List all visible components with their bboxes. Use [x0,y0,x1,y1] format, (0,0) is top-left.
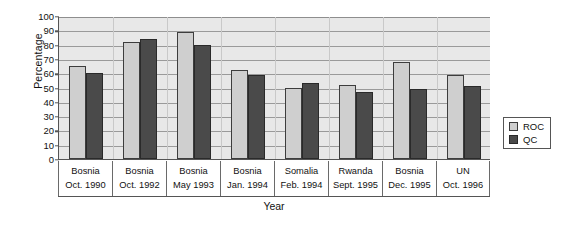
group-separator [383,17,384,159]
group-separator [113,17,114,159]
bar-group [167,17,221,159]
x-axis-category-label: SomaliaFeb. 1994 [274,161,328,196]
x-axis-label-line: Bosnia [179,166,207,178]
x-axis-label-line: Oct. 1992 [119,180,159,192]
bar-roc [447,75,464,159]
x-axis-label-line: Sept. 1995 [333,180,378,192]
legend-label-qc: QC [523,135,537,145]
bar-qc [302,83,319,159]
x-axis-category-label: RwandaSept. 1995 [328,161,382,196]
x-axis-label-line: May 1993 [173,180,214,192]
x-axis-category-label: BosniaOct. 1990 [58,161,112,196]
x-axis-title: Year [58,200,490,212]
bar-group [275,17,329,159]
bar-qc [410,89,427,159]
legend-swatch-roc [509,122,518,131]
x-axis-label-line: Rwanda [338,166,372,178]
x-axis-label-line: Bosnia [395,166,423,178]
y-axis-tick-label: 30 [2,112,54,122]
y-axis-tick-label: 60 [2,69,54,79]
bar-roc [123,42,140,159]
bar-roc [231,70,248,159]
legend-swatch-qc [509,135,518,144]
y-axis-tick-label: 10 [2,141,54,151]
y-axis-tick-label: 90 [2,27,54,37]
x-axis-label-line: Oct. 1996 [443,180,483,192]
x-axis-label-line: Somalia [285,166,319,178]
bar-qc [464,86,481,159]
x-axis-label-line: Bosnia [71,166,99,178]
group-separator [329,17,330,159]
x-axis-label-line: Dec. 1995 [388,180,430,192]
x-axis-category-band: BosniaOct. 1990BosniaOct. 1992BosniaMay … [58,161,490,197]
legend-label-roc: ROC [523,122,544,132]
x-axis-label-line: Feb. 1994 [281,180,323,192]
plot-inner: 1009080706050403020100 [59,17,490,159]
x-axis-label-line: Oct. 1990 [65,180,105,192]
chart-legend: ROCQC [503,117,551,149]
y-axis-tick-label: 100 [2,12,54,22]
group-separator [437,17,438,159]
y-axis-tick-label: 70 [2,55,54,65]
legend-item-roc: ROC [509,122,544,132]
y-axis-tick-label: 0 [2,155,54,165]
bar-roc [177,32,194,159]
group-separator [221,17,222,159]
y-axis-tick-label: 50 [2,84,54,94]
plot-area: 1009080706050403020100 [58,17,490,160]
x-axis-label-line: Bosnia [233,166,261,178]
bar-group [437,17,491,159]
bar-roc [339,85,356,159]
group-separator [275,17,276,159]
bar-qc [194,45,211,159]
bar-qc [356,92,373,159]
bar-roc [69,66,86,159]
bar-qc [140,39,157,159]
bar-group [221,17,275,159]
bar-chart: Percentage 1009080706050403020100 Bosnia… [0,0,565,226]
bar-roc [393,62,410,159]
x-axis-category-label: BosniaDec. 1995 [382,161,436,196]
group-separator [167,17,168,159]
bar-group [59,17,113,159]
legend-item-qc: QC [509,135,544,145]
x-axis-label-line: Bosnia [125,166,153,178]
y-axis-tick-label: 20 [2,127,54,137]
x-axis-category-label: BosniaMay 1993 [166,161,220,196]
bar-qc [248,75,265,159]
bar-group [329,17,383,159]
x-axis-category-label: BosniaJan. 1994 [220,161,274,196]
x-axis-label-line: UN [456,166,469,178]
x-axis-category-label: BosniaOct. 1992 [112,161,166,196]
x-axis-category-label: UNOct. 1996 [436,161,490,196]
y-axis-tick-label: 80 [2,41,54,51]
bar-group [113,17,167,159]
bar-group [383,17,437,159]
x-axis-label-line: Jan. 1994 [227,180,268,192]
bar-qc [86,73,103,159]
y-axis-tick-label: 40 [2,98,54,108]
bar-roc [285,88,302,160]
